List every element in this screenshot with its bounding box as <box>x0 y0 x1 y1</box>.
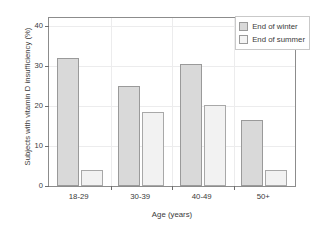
bar-40-49-summer <box>204 105 226 186</box>
chart-figure: Subjects with vitamin D insufficiency (%… <box>0 0 311 232</box>
y-tick-mark <box>45 106 49 107</box>
bar-50plus-winter <box>241 120 263 186</box>
chart-legend: End of winter End of summer <box>235 16 310 50</box>
bar-40-49-winter <box>180 64 202 186</box>
bar-30-39-summer <box>142 112 164 186</box>
legend-item-winter: End of winter <box>239 20 305 33</box>
x-tick-mark <box>234 186 235 190</box>
y-tick-label: 10 <box>27 142 43 150</box>
y-tick-mark <box>45 66 49 67</box>
legend-swatch-winter-icon <box>239 22 248 31</box>
legend-swatch-summer-icon <box>239 35 248 44</box>
bar-18-29-winter <box>57 58 79 186</box>
y-tick-label: 20 <box>27 102 43 110</box>
y-tick-label: 40 <box>27 22 43 30</box>
y-tick-mark <box>45 186 49 187</box>
gridline-vertical <box>111 18 112 186</box>
x-tick-label: 50+ <box>232 192 294 201</box>
gridline-vertical <box>172 18 173 186</box>
y-tick-mark <box>45 146 49 147</box>
legend-label-summer: End of summer <box>252 35 305 44</box>
x-tick-label: 18-29 <box>48 192 110 201</box>
legend-label-winter: End of winter <box>252 22 298 31</box>
y-axis-title: Subjects with vitamin D insufficiency (%… <box>23 7 32 187</box>
x-tick-mark <box>172 186 173 190</box>
x-tick-mark <box>111 186 112 190</box>
x-tick-label: 30-39 <box>109 192 171 201</box>
legend-item-summer: End of summer <box>239 33 305 46</box>
bar-18-29-summer <box>81 170 103 186</box>
y-tick-mark <box>45 26 49 27</box>
bar-50plus-summer <box>265 170 287 186</box>
y-tick-label: 30 <box>27 62 43 70</box>
x-axis-title: Age (years) <box>48 210 296 219</box>
bar-30-39-winter <box>118 86 140 186</box>
y-tick-label: 0 <box>27 182 43 190</box>
x-tick-label: 40-49 <box>171 192 233 201</box>
